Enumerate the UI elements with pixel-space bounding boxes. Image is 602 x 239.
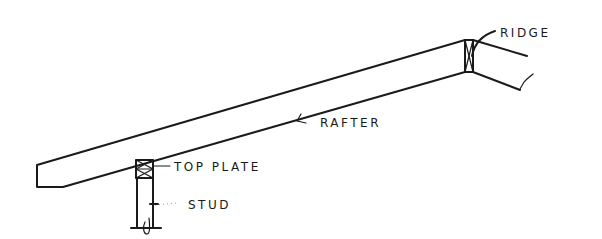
rafter-label: RAFTER bbox=[320, 116, 381, 130]
stud-label: STUD bbox=[188, 198, 231, 212]
rafter-framing-diagram: RIDGE RAFTER TOP PLATE STUD bbox=[0, 0, 602, 239]
stud bbox=[131, 178, 161, 234]
ridge-label: RIDGE bbox=[500, 26, 551, 40]
top-plate-label: TOP PLATE bbox=[173, 160, 261, 174]
opposite-rafter bbox=[473, 40, 533, 90]
